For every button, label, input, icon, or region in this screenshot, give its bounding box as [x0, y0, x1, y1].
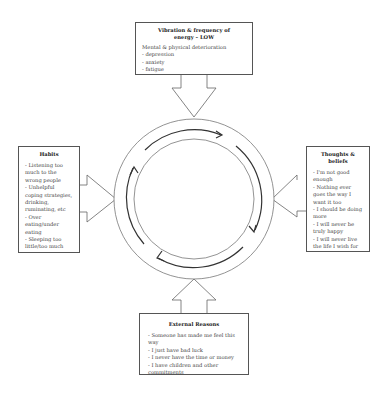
external-reasons-item: - I have children and other commitments [148, 362, 240, 377]
external-reasons-item: - I just have bad luck [148, 347, 240, 354]
habits-item: - Unhelpful coping strategies, drinking,… [25, 184, 73, 214]
thoughts-beliefs-item: - I will never be truly happy [313, 221, 363, 236]
thoughts-beliefs-box: Thoughts & beliefs - I'm not good enough… [306, 146, 370, 252]
energy-level-item: - depression [142, 51, 246, 58]
habits-box: Habits - Listening too much to the wrong… [18, 146, 80, 253]
thoughts-beliefs-title: Thoughts & beliefs [313, 151, 363, 165]
external-reasons-item: - Someone has made me feel this way [148, 332, 240, 347]
energy-level-intro: Mental & physical deterioration [142, 44, 246, 51]
thoughts-beliefs-item: - I'm not good enough [313, 169, 363, 184]
up-arrow-shape [172, 279, 216, 314]
external-reasons-item: - I never have the time or money [148, 354, 240, 361]
external-reasons-title: External Reasons [148, 321, 240, 328]
inner-ring [134, 139, 254, 259]
energy-level-box: Vibration & frequency of energy – LOW Me… [135, 22, 253, 75]
left-arrow-shape [272, 175, 308, 217]
habits-item: - Listening too much to the wrong people [25, 162, 73, 184]
energy-level-title: Vibration & frequency of energy – LOW [142, 27, 246, 41]
thoughts-beliefs-item: - I will never live the life I wish for [313, 236, 363, 251]
habits-item: - Sleeping too little/too much [25, 236, 73, 251]
habits-title: Habits [25, 151, 73, 158]
right-arrow-shape [80, 175, 116, 222]
energy-level-item: - anxiety [142, 59, 246, 66]
habits-item: - Over eating/under eating [25, 214, 73, 236]
down-arrow-shape [172, 74, 216, 117]
energy-level-item: - fatigue [142, 66, 246, 73]
thoughts-beliefs-item: - I should be doing more [313, 206, 363, 221]
external-reasons-box: External Reasons - Someone has made me f… [139, 313, 249, 375]
thoughts-beliefs-item: - Nothing ever goes the way I want it to… [313, 184, 363, 206]
